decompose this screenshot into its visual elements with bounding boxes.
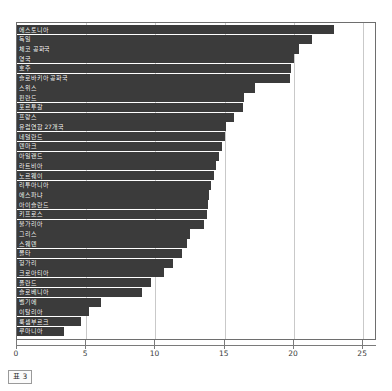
bar[interactable] [17, 278, 151, 287]
x-tick-mark [362, 340, 363, 349]
x-tick-label: 5 [83, 349, 88, 358]
bar-category-label: 벨기에 [19, 297, 37, 307]
bar-category-label: 루마니아 [19, 326, 43, 336]
bar[interactable] [17, 171, 214, 180]
bar-category-label: 몰타 [19, 248, 31, 258]
bar-row[interactable]: 라트비아 [17, 161, 375, 170]
bar-category-label: 룩셈부르크 [19, 317, 49, 327]
bar[interactable] [17, 142, 222, 151]
bar-row[interactable]: 헝가리 [17, 259, 375, 268]
bar[interactable] [17, 249, 182, 258]
bar-row[interactable]: 벨기에 [17, 298, 375, 307]
x-tick-mark [154, 340, 155, 349]
bar-category-label: 리투아니아 [19, 180, 49, 190]
bar-category-label: 크로아티아 [19, 268, 49, 278]
figure-container: 에스토니아독일체코 공화국영국호주슬로바키아 공화국스위스핀란드포르투갈프랑스유… [0, 0, 392, 391]
bar[interactable] [17, 190, 209, 199]
bar-category-label: 네덜란드 [19, 132, 43, 142]
bar-row[interactable]: 영국 [17, 54, 375, 63]
bar[interactable] [17, 210, 207, 219]
x-tick-mark [224, 340, 225, 349]
bar-row[interactable]: 그리스 [17, 229, 375, 238]
bar-category-label: 스위스 [19, 83, 37, 93]
bar-row[interactable]: 키프로스 [17, 210, 375, 219]
bar-row[interactable]: 아일랜드 [17, 152, 375, 161]
x-tick-label: 25 [357, 349, 367, 358]
bar[interactable] [17, 113, 234, 122]
bar-category-label: 독일 [19, 34, 31, 44]
bar-category-label: 덴마크 [19, 141, 37, 151]
bar[interactable] [17, 83, 255, 92]
figure-caption: 표 3 [8, 370, 32, 384]
bar-row[interactable]: 에스파냐 [17, 190, 375, 199]
bar-row[interactable]: 체코 공화국 [17, 44, 375, 53]
bar-category-label: 불가리아 [19, 219, 43, 229]
bar[interactable] [17, 152, 219, 161]
bar-row[interactable]: 네덜란드 [17, 132, 375, 141]
bar-row[interactable]: 포르투갈 [17, 103, 375, 112]
bar-category-label: 핀란드 [19, 93, 37, 103]
x-tick-label: 15 [219, 349, 229, 358]
bar[interactable] [17, 64, 291, 73]
bar-row[interactable]: 불가리아 [17, 220, 375, 229]
x-tick-mark [293, 340, 294, 349]
bar-row[interactable]: 루마니아 [17, 327, 375, 336]
bar[interactable] [17, 44, 299, 53]
x-axis-ticks: 0510152025 [16, 340, 376, 358]
bar-category-label: 슬로바키아 공화국 [19, 73, 68, 83]
x-tick-label: 10 [150, 349, 160, 358]
bar-category-label: 영국 [19, 54, 31, 64]
x-tick-mark [16, 340, 17, 349]
bar-row[interactable]: 스웨덴 [17, 239, 375, 248]
bar-category-label: 에스파냐 [19, 190, 43, 200]
bar[interactable] [17, 93, 244, 102]
bar-category-label: 키프로스 [19, 209, 43, 219]
bar-row[interactable]: 덴마크 [17, 142, 375, 151]
bar-category-label: 스웨덴 [19, 239, 37, 249]
bar[interactable] [17, 54, 294, 63]
bar-row[interactable]: 에스토니아 [17, 25, 375, 34]
x-tick-label: 0 [14, 349, 19, 358]
bar[interactable] [17, 220, 204, 229]
bar-row[interactable]: 독일 [17, 35, 375, 44]
bar[interactable] [17, 239, 187, 248]
bar-row[interactable]: 호주 [17, 64, 375, 73]
bar-row[interactable]: 룩셈부르크 [17, 317, 375, 326]
bar-row[interactable]: 폴란드 [17, 278, 375, 287]
plot-area: 에스토니아독일체코 공화국영국호주슬로바키아 공화국스위스핀란드포르투갈프랑스유… [16, 22, 376, 340]
bar-category-label: 노르웨이 [19, 171, 43, 181]
bar-category-label: 아일랜드 [19, 151, 43, 161]
bar-row[interactable]: 아이슬란드 [17, 200, 375, 209]
bar-category-label: 프랑스 [19, 112, 37, 122]
bar-category-label: 이탈리아 [19, 307, 43, 317]
bar-row[interactable]: 프랑스 [17, 113, 375, 122]
bar-row[interactable]: 슬로바키아 공화국 [17, 74, 375, 83]
bar-category-label: 체코 공화국 [19, 44, 50, 54]
bar-category-label: 에스토니아 [19, 25, 49, 35]
bar-category-label: 헝가리 [19, 258, 37, 268]
bar-row[interactable]: 몰타 [17, 249, 375, 258]
bar[interactable] [17, 103, 243, 112]
bar-category-label: 폴란드 [19, 278, 37, 288]
bar-category-label: 포르투갈 [19, 102, 43, 112]
x-tick-mark [85, 340, 86, 349]
bar[interactable] [17, 35, 312, 44]
bar[interactable] [17, 161, 216, 170]
bar-category-label: 그리스 [19, 229, 37, 239]
bar-row[interactable]: 슬로베니아 [17, 288, 375, 297]
bar-row[interactable]: 유럽연합 27개국 [17, 122, 375, 131]
bar[interactable] [17, 229, 190, 238]
bar[interactable] [17, 259, 173, 268]
bar[interactable] [17, 132, 225, 141]
bar-category-label: 라트비아 [19, 161, 43, 171]
bar-row[interactable]: 스위스 [17, 83, 375, 92]
bar-series: 에스토니아독일체코 공화국영국호주슬로바키아 공화국스위스핀란드포르투갈프랑스유… [17, 25, 375, 337]
bar-row[interactable]: 노르웨이 [17, 171, 375, 180]
bar-row[interactable]: 이탈리아 [17, 307, 375, 316]
bar-row[interactable]: 크로아티아 [17, 268, 375, 277]
bar-row[interactable]: 핀란드 [17, 93, 375, 102]
bar-row[interactable]: 리투아니아 [17, 181, 375, 190]
bar-category-label: 호주 [19, 63, 31, 73]
bar[interactable] [17, 25, 334, 34]
bar-category-label: 슬로베니아 [19, 287, 49, 297]
